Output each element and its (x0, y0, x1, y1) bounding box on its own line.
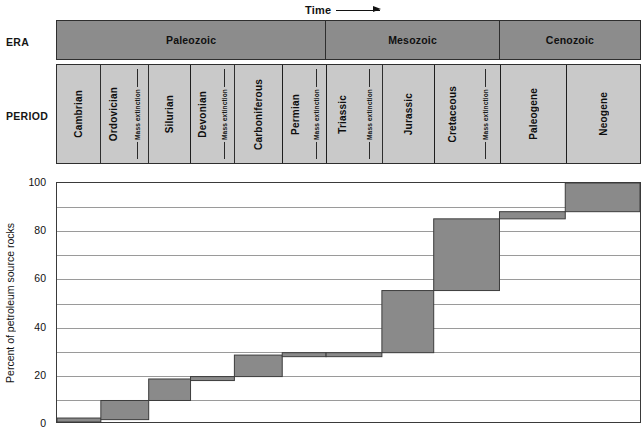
y-tick-label: 80 (34, 224, 46, 236)
mass-extinction-label: Mass extinction (366, 87, 373, 142)
period-cell-ordovician: OrdovicianMass extinction (101, 65, 149, 163)
period-cell-label: Neogene (598, 92, 609, 136)
step-bar-devonian (191, 377, 235, 381)
step-bar-neogene (565, 183, 640, 212)
period-cell-label: Permian (290, 94, 301, 135)
era-band: PaleozoicMesozoicCenozoic (56, 20, 641, 60)
era-cell-mesozoic: Mesozoic (326, 21, 500, 59)
period-cell-paleogene: Paleogene (501, 65, 567, 163)
period-row-label: PERIOD (6, 110, 48, 122)
cumulative-step-series (57, 183, 640, 422)
period-cell-label: Ordovician (108, 87, 119, 141)
period-cell-label: Cambrian (73, 90, 84, 138)
period-cell-carboniferous: Carboniferous (235, 65, 283, 163)
era-cell-label: Mesozoic (388, 34, 437, 46)
period-cell-label: Devonian (197, 91, 208, 138)
period-cell-label: Triassic (337, 95, 348, 134)
era-cell-cenozoic: Cenozoic (500, 21, 640, 59)
mass-extinction-marker: Mass extinction (224, 69, 225, 159)
mass-extinction-marker: Mass extinction (137, 69, 138, 159)
step-bar-permian (282, 353, 326, 357)
mass-extinction-marker: Mass extinction (369, 69, 370, 159)
step-bar-silurian (149, 379, 191, 401)
step-bar-ordovician (101, 400, 149, 419)
period-band: CambrianOrdovicianMass extinctionSiluria… (56, 64, 641, 164)
period-cell-label: Silurian (164, 95, 175, 133)
step-bar-cambrian (57, 418, 101, 422)
mass-extinction-label: Mass extinction (134, 87, 141, 142)
step-bar-carboniferous (234, 355, 282, 377)
period-cell-label: Cretaceous (447, 86, 458, 142)
period-cell-label: Jurassic (403, 93, 414, 135)
period-cell-jurassic: Jurassic (383, 65, 435, 163)
step-bar-triassic (326, 353, 382, 357)
step-bar-paleogene (499, 212, 565, 219)
y-tick-label: 40 (34, 321, 46, 333)
mass-extinction-label: Mass extinction (482, 87, 489, 142)
mass-extinction-label: Mass extinction (221, 87, 228, 142)
period-cell-silurian: Silurian (149, 65, 191, 163)
step-bar-jurassic (382, 291, 434, 353)
y-axis-ticks: 020406080100 (0, 182, 52, 423)
chart-plot-area (56, 182, 641, 423)
y-tick-label: 100 (28, 176, 46, 188)
period-cell-label: Carboniferous (253, 79, 264, 150)
mass-extinction-marker: Mass extinction (316, 69, 317, 159)
period-cell-devonian: DevonianMass extinction (191, 65, 235, 163)
right-arrow-icon (336, 10, 380, 11)
time-arrow: Time (305, 2, 465, 18)
y-tick-label: 20 (34, 369, 46, 381)
era-cell-label: Paleozoic (166, 34, 216, 46)
period-cell-neogene: Neogene (567, 65, 640, 163)
y-tick-label: 60 (34, 272, 46, 284)
period-cell-label: Paleogene (528, 88, 539, 140)
period-cell-cretaceous: CretaceousMass extinction (435, 65, 501, 163)
period-cell-triassic: TriassicMass extinction (327, 65, 383, 163)
era-cell-paleozoic: Paleozoic (57, 21, 326, 59)
step-bar-cretaceous (434, 219, 500, 291)
mass-extinction-label: Mass extinction (313, 87, 320, 142)
y-tick-label: 0 (40, 417, 46, 429)
mass-extinction-marker: Mass extinction (485, 69, 486, 159)
period-cell-cambrian: Cambrian (57, 65, 101, 163)
era-cell-label: Cenozoic (546, 34, 594, 46)
time-arrow-label: Time (305, 4, 331, 16)
period-cell-permian: PermianMass extinction (283, 65, 327, 163)
era-row-label: ERA (6, 36, 29, 48)
